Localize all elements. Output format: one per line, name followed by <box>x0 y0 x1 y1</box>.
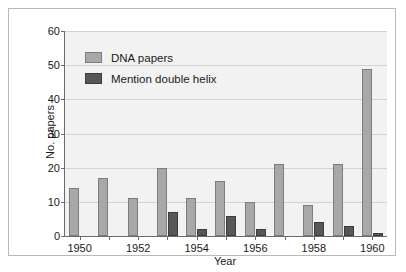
legend-label: DNA papers <box>111 52 173 64</box>
bar-dna-papers <box>274 164 284 236</box>
y-tick-label: 40 <box>48 94 60 105</box>
x-tick-label: 1956 <box>243 242 267 254</box>
x-tick-mark <box>314 236 315 240</box>
bar-dna-papers <box>303 205 313 236</box>
bar-dna-papers <box>128 198 138 236</box>
bar-dna-papers <box>157 168 167 236</box>
y-tick-label: 50 <box>48 60 60 71</box>
x-tick-label: 1954 <box>184 242 208 254</box>
figure-frame: No. papers Year 0102030405060 1950195219… <box>8 8 396 256</box>
x-tick-mark <box>80 236 81 240</box>
bar-mention-double-helix <box>168 212 178 236</box>
y-tick-label: 0 <box>54 231 60 242</box>
bar-mention-double-helix <box>197 229 207 236</box>
bar-dna-papers <box>245 202 255 236</box>
x-tick-mark <box>285 236 286 240</box>
x-tick-label: 1950 <box>67 242 91 254</box>
x-tick-mark <box>109 236 110 240</box>
x-tick-label: 1958 <box>302 242 326 254</box>
x-tick-mark <box>343 236 344 240</box>
x-tick-label: 1960 <box>360 242 384 254</box>
bar-group <box>299 31 328 236</box>
bar-mention-double-helix <box>226 216 236 237</box>
bar-dna-papers <box>333 164 343 236</box>
bar-group <box>358 31 387 236</box>
y-tick-label: 10 <box>48 196 60 207</box>
x-tick-mark <box>197 236 198 240</box>
x-tick-mark <box>226 236 227 240</box>
bar-dna-papers <box>69 188 79 236</box>
legend-item-dna-papers: DNA papers <box>85 49 217 66</box>
x-tick-label: 1952 <box>126 242 150 254</box>
bar-dna-papers <box>98 178 108 236</box>
y-tick-label: 20 <box>48 162 60 173</box>
x-tick-mark <box>167 236 168 240</box>
legend-label: Mention double helix <box>111 73 217 85</box>
y-tick-mark <box>61 236 65 237</box>
bar-mention-double-helix <box>314 222 324 236</box>
plot-area: 0102030405060 195019521954195619581960 D… <box>64 31 387 237</box>
y-tick-label: 60 <box>48 26 60 37</box>
bar-dna-papers <box>215 181 225 236</box>
legend-swatch-icon <box>85 52 102 63</box>
bar-dna-papers <box>362 69 372 236</box>
x-tick-mark <box>255 236 256 240</box>
bar-group <box>270 31 299 236</box>
bar-mention-double-helix <box>344 226 354 236</box>
bar-dna-papers <box>186 198 196 236</box>
x-axis-label: Year <box>64 255 386 267</box>
chart-figure: No. papers Year 0102030405060 1950195219… <box>0 0 406 272</box>
chart-legend: DNA papers Mention double helix <box>85 49 217 91</box>
bar-mention-double-helix <box>256 229 266 236</box>
bar-mention-double-helix <box>373 233 383 236</box>
bar-group <box>241 31 270 236</box>
x-tick-mark <box>372 236 373 240</box>
bar-group <box>328 31 357 236</box>
legend-swatch-icon <box>85 73 102 84</box>
x-tick-mark <box>138 236 139 240</box>
y-tick-label: 30 <box>48 128 60 139</box>
legend-item-mention-double-helix: Mention double helix <box>85 70 217 87</box>
